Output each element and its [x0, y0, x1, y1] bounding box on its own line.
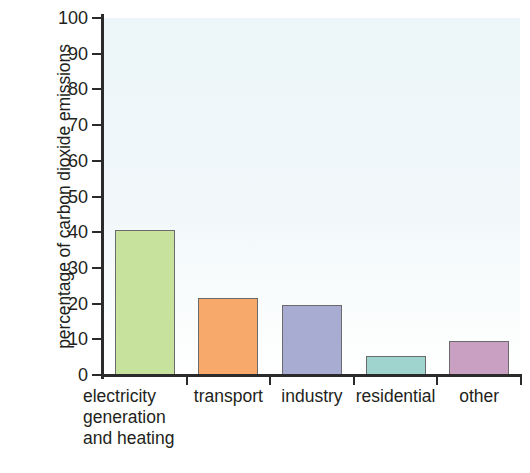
x-axis-tick — [436, 375, 438, 385]
bar-other — [449, 341, 509, 375]
x-axis-category-label: other — [425, 386, 530, 407]
x-axis-tick — [269, 375, 271, 385]
y-axis-tick-label: 70 — [44, 116, 88, 134]
bar-industry — [282, 305, 342, 375]
y-axis-tick-label: 40 — [44, 223, 88, 241]
bar-transport — [198, 298, 258, 375]
y-axis-tick-label: 90 — [44, 45, 88, 63]
y-axis-tick-label: 10 — [44, 330, 88, 348]
bar-residential — [366, 356, 426, 375]
y-axis-tick-label: 100 — [44, 9, 88, 27]
x-axis-tick — [520, 375, 522, 385]
x-axis-category-label-line: other — [425, 386, 530, 407]
y-axis-tick-label: 20 — [44, 295, 88, 313]
y-axis-tick-label: 30 — [44, 259, 88, 277]
x-axis-category-label-line: and heating — [83, 428, 213, 449]
y-axis-line — [101, 14, 104, 379]
y-axis-tick-label: 0 — [44, 366, 88, 384]
x-axis-category-labels: electricitygenerationand heatingtranspor… — [0, 386, 530, 473]
x-axis-tick — [186, 375, 188, 385]
y-axis-tick-label: 60 — [44, 152, 88, 170]
bar-chart-figure: percentage of carbon dioxide emissions 1… — [0, 0, 530, 473]
x-axis-tick — [353, 375, 355, 385]
x-axis-line — [101, 374, 522, 377]
y-axis-tick-label: 80 — [44, 80, 88, 98]
y-axis-tick-label: 50 — [44, 188, 88, 206]
bar-electricity — [115, 230, 175, 375]
x-axis-category-label-line: generation — [83, 407, 213, 428]
